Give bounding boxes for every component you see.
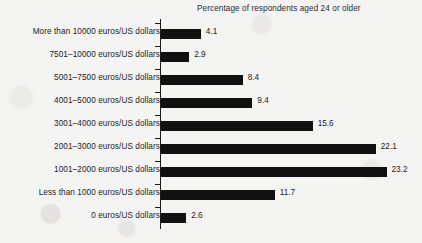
category-label: 7501–10000 euros/US dollars [0, 50, 160, 59]
bar-row: Less than 1000 euros/US dollars11.7 [0, 184, 422, 207]
category-label: 4001–5000 euros/US dollars [0, 96, 160, 105]
category-label: 5001–7500 euros/US dollars [0, 73, 160, 82]
bar [161, 190, 275, 200]
bar-value-label: 15.6 [318, 119, 334, 128]
bar-row: More than 10000 euros/US dollars4.1 [0, 23, 422, 46]
category-label: 3001–4000 euros/US dollars [0, 119, 160, 128]
axis-tick-mark [155, 115, 160, 116]
bar [161, 213, 186, 223]
bar-row: 4001–5000 euros/US dollars9.4 [0, 92, 422, 115]
bar-value-label: 11.7 [280, 188, 295, 197]
bar [161, 144, 376, 154]
axis-tick-mark [155, 46, 160, 47]
chart-title: Percentage of respondents aged 24 or old… [197, 4, 361, 13]
bar-row: 0 euros/US dollars2.6 [0, 207, 422, 230]
bar-value-label: 2.9 [194, 50, 205, 59]
bar-row: 3001–4000 euros/US dollars15.6 [0, 115, 422, 138]
bar-value-label: 2.6 [191, 211, 202, 220]
bar-value-label: 23.2 [392, 165, 408, 174]
bar-row: 7501–10000 euros/US dollars2.9 [0, 46, 422, 69]
category-label: 1001–2000 euros/US dollars [0, 165, 160, 174]
axis-tick-mark [155, 92, 160, 93]
bar-value-label: 9.4 [257, 96, 268, 105]
axis-tick-mark [155, 207, 160, 208]
bar-value-label: 8.4 [248, 73, 259, 82]
bar-value-label: 22.1 [381, 142, 397, 151]
axis-tick-mark [155, 138, 160, 139]
bar-value-label: 4.1 [206, 27, 217, 36]
bar-row: 1001–2000 euros/US dollars23.2 [0, 161, 422, 184]
bar [161, 75, 243, 85]
axis-tick-mark [155, 161, 160, 162]
axis-tick-mark [155, 23, 160, 24]
plot-area: More than 10000 euros/US dollars4.17501–… [0, 19, 422, 229]
bar-row: 5001–7500 euros/US dollars8.4 [0, 69, 422, 92]
axis-tick-mark [155, 184, 160, 185]
bar [161, 52, 189, 62]
bar-chart-figure: Percentage of respondents aged 24 or old… [0, 0, 422, 243]
category-label: 0 euros/US dollars [0, 211, 160, 220]
axis-tick-mark [155, 69, 160, 70]
bar-row: 2001–3000 euros/US dollars22.1 [0, 138, 422, 161]
bar [161, 98, 252, 108]
bar [161, 29, 201, 39]
category-label: 2001–3000 euros/US dollars [0, 142, 160, 151]
category-label: Less than 1000 euros/US dollars [0, 188, 160, 197]
category-label: More than 10000 euros/US dollars [0, 27, 160, 36]
bar [161, 167, 387, 177]
bar [161, 121, 313, 131]
